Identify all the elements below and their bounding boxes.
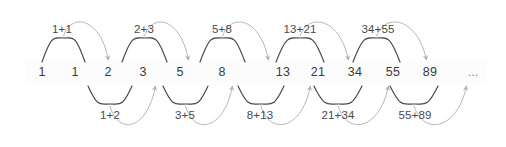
fibonacci-diagram: 1123581321345589... 1+12+35+813+2134+55 … [0, 0, 506, 147]
bottom-pair-arc-group [88, 86, 438, 104]
bottom-pair-arc [163, 86, 208, 104]
top-pair-arc [276, 38, 324, 62]
bottom-sum-label: 3+5 [145, 108, 225, 122]
bottom-pair-arc [314, 86, 362, 104]
top-sum-label: 13+21 [260, 22, 340, 36]
bottom-sum-label: 1+2 [70, 108, 150, 122]
top-sum-label: 5+8 [182, 22, 262, 36]
top-pair-arc [200, 38, 245, 62]
bottom-sum-label: 21+34 [298, 108, 378, 122]
bottom-sum-label: 55+89 [375, 108, 455, 122]
top-pair-arc [122, 38, 167, 62]
bottom-pair-arc [238, 86, 284, 104]
top-pair-arc [42, 38, 85, 62]
top-pair-arc [353, 38, 400, 62]
bottom-pair-arc [88, 86, 132, 104]
bottom-sum-label: 8+13 [220, 108, 300, 122]
bottom-pair-arc [390, 86, 438, 104]
top-sum-label: 1+1 [22, 22, 102, 36]
top-sum-label: 34+55 [338, 22, 418, 36]
top-sum-label: 2+3 [104, 22, 184, 36]
